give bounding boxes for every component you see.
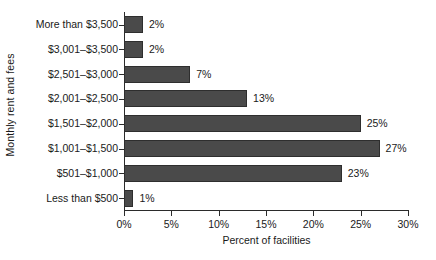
x-axis-tick-label: 30%: [397, 218, 418, 230]
bar-value-label: 23%: [348, 165, 369, 182]
bar: [124, 90, 247, 107]
bar-chart: Monthly rent and fees More than $3,500$3…: [0, 0, 436, 260]
x-axis-tick: [361, 211, 362, 216]
x-axis-tick-label: 10%: [208, 218, 229, 230]
y-axis-tick-label: $3,001–$3,500: [18, 44, 118, 55]
x-axis-tick-label: 15%: [255, 218, 276, 230]
bar-value-label: 13%: [253, 90, 274, 107]
bar: [124, 190, 133, 207]
bar: [124, 140, 380, 157]
y-axis-tick-label: $1,501–$2,000: [18, 118, 118, 129]
bar-value-label: 1%: [139, 190, 154, 207]
x-axis-tick: [124, 211, 125, 216]
y-axis-tick-label: $2,001–$2,500: [18, 93, 118, 104]
y-axis-tick-label: Less than $500: [18, 193, 118, 204]
bar-value-label: 2%: [149, 16, 164, 33]
bar: [124, 41, 143, 58]
y-axis-title: Monthly rent and fees: [0, 0, 20, 210]
y-axis-tick-label: $2,501–$3,000: [18, 69, 118, 80]
bar-value-label: 27%: [386, 140, 407, 157]
x-axis-tick: [408, 211, 409, 216]
y-axis-tick-label: More than $3,500: [18, 19, 118, 30]
x-axis-tick-label: 25%: [350, 218, 371, 230]
plot-area: 2%2%7%13%25%27%23%1%: [124, 12, 408, 210]
bar: [124, 66, 190, 83]
bar: [124, 165, 342, 182]
y-axis-tick-label: $501–$1,000: [18, 168, 118, 179]
x-axis-tick-label: 5%: [164, 218, 179, 230]
y-axis-tick-label: $1,001–$1,500: [18, 143, 118, 154]
bar: [124, 115, 361, 132]
y-axis-tick-labels: More than $3,500$3,001–$3,500$2,501–$3,0…: [18, 12, 118, 210]
y-axis-title-text: Monthly rent and fees: [4, 53, 16, 156]
bar-value-label: 25%: [367, 115, 388, 132]
x-axis-tick: [219, 211, 220, 216]
x-axis-tick: [171, 211, 172, 216]
x-axis-tick-label: 0%: [116, 218, 131, 230]
x-axis-tick: [266, 211, 267, 216]
bar-value-label: 2%: [149, 41, 164, 58]
x-axis-title: Percent of facilities: [124, 234, 409, 246]
bar-value-label: 7%: [196, 66, 211, 83]
x-axis-tick-label: 20%: [303, 218, 324, 230]
bar: [124, 16, 143, 33]
x-axis-tick: [313, 211, 314, 216]
